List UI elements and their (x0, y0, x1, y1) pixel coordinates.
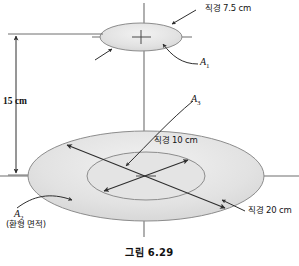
figure-container: 직경 7.5 cm A1 15 cm A3 직경 10 cm 직경 20 cm … (0, 0, 299, 266)
leader-top-diameter (172, 10, 196, 24)
label-outer-diameter: 직경 20 cm (248, 206, 292, 216)
figure-caption: 그림 6.29 (0, 244, 299, 259)
label-A3-sub: 3 (197, 99, 201, 107)
label-inner-diameter: 직경 10 cm (154, 136, 198, 146)
label-A1-sub: 1 (206, 62, 210, 70)
leader-top-disk-surface (95, 49, 112, 60)
label-area-A3: A3 (191, 93, 201, 107)
label-area-A1: A1 (200, 56, 210, 70)
label-area-A2-note: (환형 면적) (6, 220, 46, 230)
label-top-diameter: 직경 7.5 cm (205, 4, 251, 14)
label-height-dimension: 15 cm (3, 96, 27, 107)
